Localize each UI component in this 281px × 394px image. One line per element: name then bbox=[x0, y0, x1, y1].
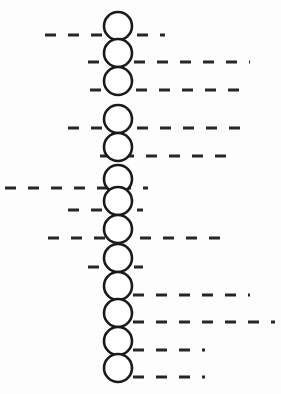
node-circle[interactable] bbox=[104, 67, 132, 95]
node-circle[interactable] bbox=[104, 105, 132, 133]
circle-chain-svg bbox=[0, 0, 281, 394]
diagram-canvas bbox=[0, 0, 281, 394]
node-circle[interactable] bbox=[104, 272, 132, 300]
node-circle[interactable] bbox=[104, 354, 132, 382]
node-circle[interactable] bbox=[104, 215, 132, 243]
node-circle[interactable] bbox=[104, 187, 132, 215]
node-circle[interactable] bbox=[104, 133, 132, 161]
node-circle[interactable] bbox=[104, 244, 132, 272]
node-circle[interactable] bbox=[104, 327, 132, 355]
node-circle-layer bbox=[104, 12, 132, 382]
dashed-line-layer bbox=[5, 35, 275, 377]
node-circle[interactable] bbox=[104, 299, 132, 327]
node-circle[interactable] bbox=[104, 39, 132, 67]
node-circle[interactable] bbox=[104, 12, 132, 40]
